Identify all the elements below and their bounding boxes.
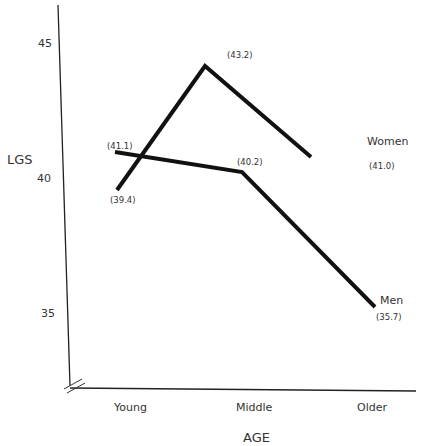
series-line-women (117, 66, 311, 190)
y-axis (58, 5, 70, 386)
data-label: (41.1) (107, 141, 133, 151)
x-axis-title: AGE (243, 430, 270, 445)
x-tick-label: Young (113, 401, 147, 414)
y-tick-label: 45 (38, 37, 52, 50)
data-label: (35.7) (376, 312, 402, 322)
series-label-women: Women (367, 135, 408, 148)
series-line-men (115, 152, 375, 307)
line-chart: 45 40 35 LGS Young Middle Older AGE (39.… (0, 0, 422, 446)
y-axis-title: LGS (7, 152, 33, 167)
data-label: (43.2) (227, 50, 253, 60)
series-label-men: Men (380, 294, 403, 307)
x-tick-label: Older (357, 401, 387, 414)
x-tick-label: Middle (236, 401, 273, 414)
x-axis (70, 388, 416, 391)
data-label: (40.2) (237, 157, 263, 167)
y-tick-label: 35 (41, 307, 55, 320)
data-label: (41.0) (369, 161, 395, 171)
data-label: (39.4) (110, 195, 136, 205)
y-tick-label: 40 (37, 172, 51, 185)
axis-break-icon (64, 379, 85, 393)
